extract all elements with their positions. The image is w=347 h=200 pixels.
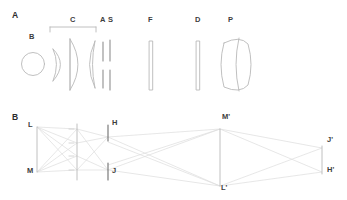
label-point-m-prime: M'	[222, 112, 230, 121]
bracket-c-graphic	[50, 27, 96, 32]
element-p-lens	[221, 38, 251, 91]
panel-a: A	[0, 0, 347, 100]
label-d: D	[195, 15, 201, 24]
element-convex-lens-1	[70, 39, 78, 90]
label-point-h: H	[112, 118, 117, 127]
label-b: B	[29, 32, 35, 41]
ray-bundle	[37, 127, 322, 186]
label-s: S	[108, 15, 113, 24]
element-convex-lens-2	[90, 41, 96, 88]
label-f: F	[148, 15, 153, 24]
panel-b-graphics	[0, 100, 347, 200]
label-p: P	[228, 15, 233, 24]
label-a: A	[100, 15, 106, 24]
optical-figure: A	[0, 0, 347, 200]
element-d-diffuser	[197, 41, 200, 90]
label-point-j-prime: J'	[327, 135, 333, 144]
label-point-l: L	[28, 120, 33, 129]
label-point-h-prime: H'	[327, 165, 334, 174]
label-c: C	[70, 15, 76, 24]
label-point-j: J	[112, 166, 116, 175]
element-f-filter	[150, 41, 153, 90]
element-b-sphere	[22, 53, 45, 76]
panel-b: B	[0, 100, 347, 200]
label-point-l-prime: L'	[221, 183, 227, 192]
label-point-m: M	[27, 166, 33, 175]
element-meniscus-lens	[53, 49, 61, 81]
panel-a-graphics	[0, 0, 347, 100]
